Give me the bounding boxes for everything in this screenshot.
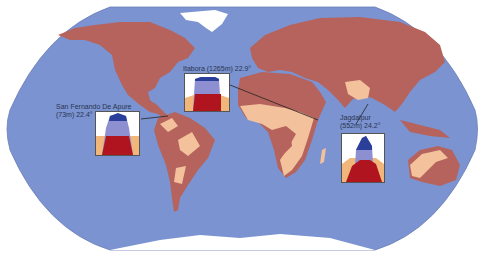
station-label-san-fernando-line2: (73m) 22.4° <box>56 111 93 119</box>
station-label-itabora: Itabora (1265m) 22.9° <box>183 65 251 73</box>
station-label-jagdalpur-line1: Jagdalpur <box>340 114 371 122</box>
climate-chart-jagdalpur <box>341 133 385 183</box>
world-map <box>0 0 481 257</box>
station-label-san-fernando-line1: San Fernando De Apure <box>56 103 132 111</box>
climate-chart-san-fernando <box>95 111 140 156</box>
climate-chart-itabora <box>184 73 230 112</box>
station-label-jagdalpur-line2: (552m) 24.2° <box>340 122 381 130</box>
